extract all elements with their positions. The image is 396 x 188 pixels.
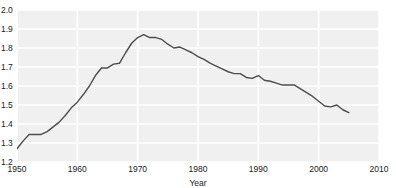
x-tick-label: 1990	[238, 165, 278, 174]
x-tick-label: 1960	[57, 165, 97, 174]
y-tick-label: 1.8	[1, 44, 17, 52]
plot-svg	[17, 10, 379, 162]
y-tick-label: 1.5	[1, 101, 17, 109]
data-series-line	[17, 35, 349, 149]
y-tick-label: 1.6	[1, 82, 17, 90]
y-tick-label: 2.0	[1, 6, 17, 14]
y-tick-label: 1.4	[1, 120, 17, 128]
plot-area	[17, 10, 379, 162]
y-tick-label: 1.9	[1, 25, 17, 33]
x-tick-label: 2000	[299, 165, 339, 174]
y-tick-label: 1.7	[1, 63, 17, 71]
x-tick-label: 1980	[178, 165, 218, 174]
x-tick-label: 2010	[359, 165, 396, 174]
y-tick-label: 1.3	[1, 139, 17, 147]
x-tick-label: 1950	[0, 165, 37, 174]
line-chart: 1.21.31.41.51.61.71.81.92.0 195019601970…	[0, 0, 396, 188]
chart-title	[0, 0, 396, 1]
x-tick-label: 1970	[118, 165, 158, 174]
x-axis-title: Year	[0, 178, 396, 188]
